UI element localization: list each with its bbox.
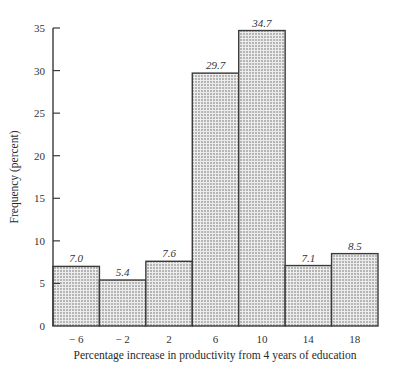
y-tick-label: 10 [34, 235, 46, 247]
y-axis-title: Frequency (percent) [8, 130, 21, 223]
x-tick-label: 10 [256, 333, 268, 345]
x-axis-tick-labels: − 6− 226101418 [69, 333, 361, 345]
bar-4 [239, 31, 285, 326]
bar-2 [146, 261, 192, 326]
y-tick-label: 25 [34, 107, 46, 119]
bar-5 [285, 266, 331, 326]
bar-value-label: 7.0 [69, 252, 83, 264]
bar-value-label: 7.6 [162, 247, 176, 259]
bar-0 [53, 266, 99, 326]
x-tick-label: − 2 [115, 333, 129, 345]
y-tick-label: 5 [40, 277, 46, 289]
bar-1 [99, 280, 145, 326]
bar-value-label: 7.1 [301, 252, 315, 264]
bar-value-label: 5.4 [116, 266, 130, 278]
y-tick-label: 20 [34, 150, 46, 162]
y-tick-label: 30 [34, 65, 46, 77]
x-tick-label: − 6 [69, 333, 84, 345]
x-tick-label: 2 [166, 333, 172, 345]
bars-group [53, 31, 378, 326]
y-tick-label: 0 [40, 320, 46, 332]
x-axis-title: Percentage increase in productivity from… [74, 349, 357, 362]
histogram-chart: 7.05.47.629.734.77.18.5 05101520253035 −… [0, 0, 393, 368]
bar-6 [332, 254, 378, 326]
bar-value-label: 34.7 [251, 17, 272, 29]
bar-3 [192, 73, 238, 326]
y-tick-label: 15 [34, 192, 46, 204]
x-tick-label: 14 [303, 333, 315, 345]
x-tick-label: 6 [213, 333, 219, 345]
bar-value-label: 8.5 [348, 240, 362, 252]
x-tick-label: 18 [349, 333, 361, 345]
y-tick-label: 35 [34, 22, 46, 34]
bar-value-label: 29.7 [206, 59, 226, 71]
